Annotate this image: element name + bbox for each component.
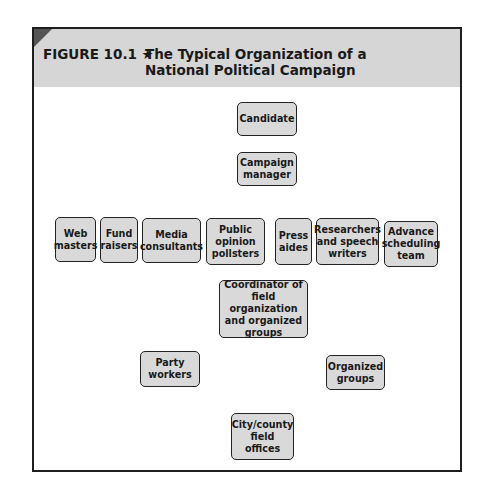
node-coordinator: Coordinator of field organization and or… xyxy=(219,280,308,338)
node-researchers: Researchers and speech writers xyxy=(316,218,379,265)
figure-header: FIGURE 10.1 ★ The Typical Organization o… xyxy=(34,29,460,87)
node-party-workers: Party workers xyxy=(140,351,200,387)
figure-label: FIGURE 10.1 ★ xyxy=(43,46,154,62)
node-field-offices: City/county field offices xyxy=(231,413,294,460)
figure-title: The Typical Organization of a National P… xyxy=(145,46,405,78)
node-advance-team: Advance scheduling team xyxy=(384,221,438,267)
node-candidate: Candidate xyxy=(237,102,297,136)
node-campaign-manager: Campaign manager xyxy=(237,152,297,186)
node-organized-groups: Organized groups xyxy=(326,355,385,390)
node-public-opinion-pollsters: Public opinion pollsters xyxy=(206,218,265,265)
node-fund-raisers: Fund raisers xyxy=(100,217,138,263)
node-media-consultants: Media consultants xyxy=(142,218,201,263)
corner-accent xyxy=(34,29,52,47)
node-press-aides: Press aides xyxy=(275,218,312,265)
node-web-masters: Web masters xyxy=(55,217,96,262)
